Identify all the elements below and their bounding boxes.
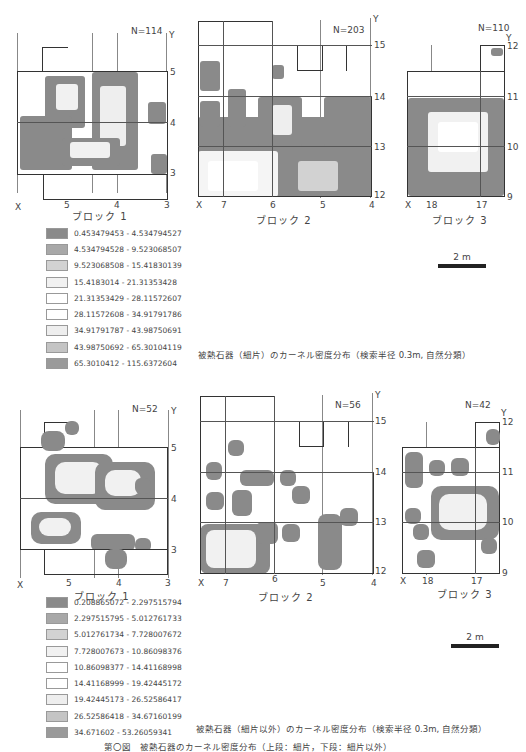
- axis-tick: 6: [272, 574, 278, 584]
- legend-label: 10.86098377 - 14.41168998: [74, 663, 182, 672]
- axis-tick: 12: [502, 417, 513, 427]
- legend-item: 0.208865072 - 2.297515794: [46, 594, 182, 610]
- grid-line: [200, 522, 374, 523]
- axis-tick: 4: [170, 118, 176, 128]
- grid-line: [20, 498, 168, 499]
- axis-tick: 9: [502, 568, 508, 578]
- block-2-boundary: [348, 472, 374, 574]
- axis-tick: 6: [270, 200, 276, 210]
- figure-caption-main: 第〇図 被熱石器のカーネル密度分布（上段：細片，下段：細片以外）: [104, 740, 392, 752]
- axis-label: X: [198, 578, 204, 588]
- block-label: ブロック 3: [437, 586, 493, 601]
- legend-item: 26.52586418 - 34.67160199: [46, 708, 182, 724]
- axis-tick: 14: [375, 467, 386, 477]
- axis-tick: 4: [371, 578, 377, 588]
- scale-bar-label: 2 m: [438, 252, 486, 262]
- axis-tick: 4: [171, 494, 177, 504]
- axis-tick: 3: [164, 200, 170, 210]
- block-1-boundary: [44, 549, 168, 575]
- axis-tick: 18: [422, 576, 433, 586]
- grid-line: [480, 71, 481, 197]
- grid-line: [274, 396, 275, 574]
- axis-tick: 13: [375, 517, 386, 527]
- legend-top: 0.453479453 - 4.534794527 4.534794528 - …: [46, 225, 182, 372]
- axis-tick: 13: [374, 142, 385, 152]
- grid-line: [225, 396, 226, 574]
- legend-swatch: [46, 277, 68, 288]
- legend-swatch: [46, 613, 68, 624]
- block-2-boundary: [198, 196, 372, 197]
- legend-swatch: [46, 727, 68, 738]
- legend-item: 34.91791787 - 43.98750691: [46, 323, 182, 339]
- legend-item: 0.453479453 - 4.534794527: [46, 225, 182, 241]
- legend-label: 34.671602 - 53.26059341: [74, 728, 172, 737]
- scale-bar-line: [438, 264, 486, 268]
- block-2-boundary: [299, 446, 324, 447]
- axis-tick: 7: [221, 200, 227, 210]
- legend-item: 10.86098377 - 14.41168998: [46, 659, 182, 675]
- legend-item: 28.11572608 - 34.91791786: [46, 306, 182, 322]
- block-3-extent: [407, 71, 505, 197]
- legend-label: 19.42445173 - 26.52586417: [74, 695, 182, 704]
- grid-line: [198, 45, 372, 46]
- legend-swatch: [46, 228, 68, 239]
- legend-label: 28.11572608 - 34.91791786: [74, 310, 182, 319]
- legend-label: 65.3010412 - 115.6372604: [74, 359, 177, 368]
- grid-line: [272, 21, 273, 197]
- sample-count: N=52: [132, 404, 158, 414]
- grid-line: [168, 410, 169, 578]
- legend-swatch: [46, 646, 68, 657]
- block-1-boundary: [43, 174, 168, 200]
- legend-label: 26.52586418 - 34.67160199: [74, 712, 182, 721]
- block-1-extent: [17, 71, 168, 175]
- legend-swatch: [46, 260, 68, 271]
- grid-line: [198, 96, 372, 97]
- legend-swatch: [46, 694, 68, 705]
- grid-line: [223, 21, 224, 197]
- grid-line: [402, 522, 500, 523]
- axis-label: Y: [373, 14, 379, 24]
- axis-tick: 5: [66, 578, 72, 588]
- scale-bar-line: [451, 644, 499, 648]
- legend-label: 9.523068508 - 15.41830139: [74, 261, 182, 270]
- block-label: ブロック 1: [72, 208, 128, 223]
- axis-tick: 3: [170, 168, 176, 178]
- legend-item: 9.523068508 - 15.41830139: [46, 258, 182, 274]
- legend-item: 34.671602 - 53.26059341: [46, 724, 182, 740]
- axis-label: X: [196, 200, 202, 210]
- legend-swatch: [46, 342, 68, 353]
- axis-tick: 15: [374, 40, 385, 50]
- scale-bar-top: 2 m: [438, 252, 486, 268]
- grid-line: [402, 472, 500, 473]
- grid-line: [475, 447, 476, 574]
- axis-label: X: [17, 580, 23, 590]
- sample-count: N=110: [478, 23, 509, 33]
- axis-tick: 5: [170, 67, 176, 77]
- legend-bottom: 0.208865072 - 2.297515794 2.297515795 - …: [46, 594, 182, 741]
- axis-tick: 3: [171, 545, 177, 555]
- legend-item: 19.42445173 - 26.52586417: [46, 692, 182, 708]
- legend-item: 21.31353429 - 28.11572607: [46, 290, 182, 306]
- figure-caption-bottom: 被熱石器（細片以外）のカーネル密度分布（検索半径 0.3m, 自然分類）: [196, 722, 487, 734]
- grid-line: [198, 146, 372, 147]
- block-2-boundary: [297, 70, 323, 71]
- sample-count: N=42: [465, 400, 491, 410]
- legend-label: 4.534794528 - 9.523068507: [74, 245, 182, 254]
- axis-tick: 17: [476, 200, 487, 210]
- axis-tick: 15: [375, 416, 386, 426]
- legend-label: 34.91791787 - 43.98750691: [74, 326, 182, 335]
- axis-label: Y: [375, 390, 381, 400]
- grid-line: [200, 472, 374, 473]
- legend-swatch: [46, 629, 68, 640]
- legend-item: 14.41168999 - 19.42445172: [46, 675, 182, 691]
- sample-count: N=203: [333, 25, 364, 35]
- axis-tick: 4: [116, 578, 122, 588]
- block-label: ブロック 2: [256, 212, 312, 227]
- legend-item: 7.728007673 - 10.86098376: [46, 643, 182, 659]
- sample-count: N=114: [131, 26, 162, 36]
- legend-item: 43.98750692 - 65.30104119: [46, 339, 182, 355]
- scale-bar-bottom: 2 m: [451, 632, 499, 648]
- legend-swatch: [46, 244, 68, 255]
- scale-bar-label: 2 m: [451, 632, 499, 642]
- axis-tick: 14: [374, 92, 385, 102]
